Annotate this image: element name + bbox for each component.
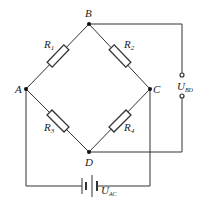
wire-b-meter xyxy=(89,24,182,73)
node-c xyxy=(148,87,152,91)
label-r3: R3 xyxy=(43,121,55,135)
label-c: C xyxy=(153,83,161,95)
wire-c-battery xyxy=(97,89,150,186)
wheatstone-bridge-diagram: B A C D R1 R2 R3 R4 UBD UAC xyxy=(0,0,203,210)
label-r4: R4 xyxy=(123,121,135,135)
battery-icon xyxy=(82,175,97,197)
terminal-top xyxy=(180,73,184,77)
wire-a-battery xyxy=(26,89,82,186)
label-b: B xyxy=(85,7,92,19)
label-ubd: UBD xyxy=(177,80,194,93)
node-a xyxy=(24,87,28,91)
label-r1: R1 xyxy=(43,38,54,52)
wire-d-meter xyxy=(89,98,182,152)
node-b xyxy=(87,22,91,26)
label-a: A xyxy=(14,83,22,95)
label-r2: R2 xyxy=(123,38,135,52)
label-d: D xyxy=(84,156,93,168)
terminal-bottom xyxy=(180,94,184,98)
node-d xyxy=(87,150,91,154)
